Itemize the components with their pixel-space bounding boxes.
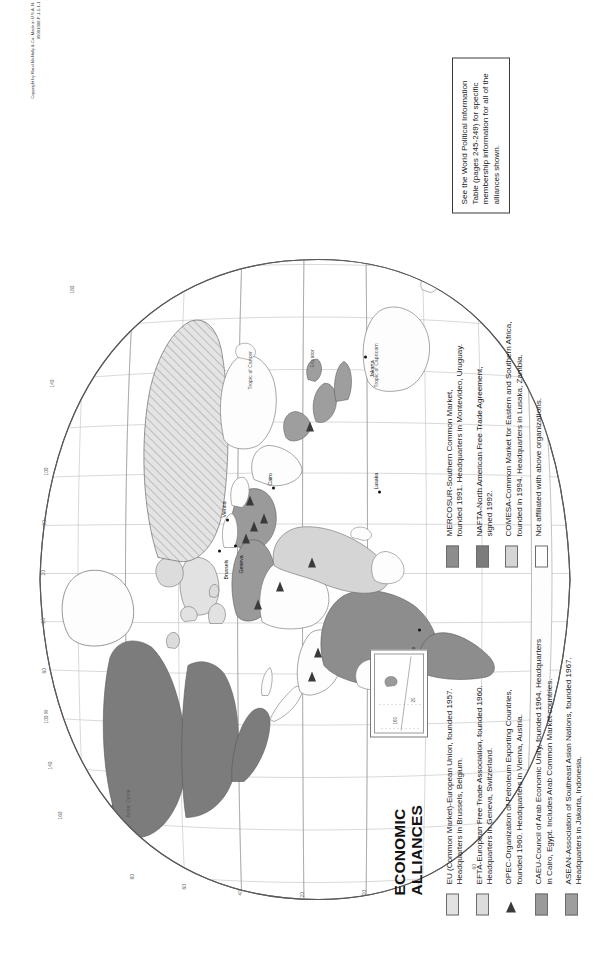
legend-swatch-opec-triangle-icon <box>505 893 518 915</box>
graticule-label-lon: 160 <box>58 811 63 819</box>
graticule-label-lon: 140 <box>50 379 55 387</box>
legend-text-unaffiliated: Not affiliated with above organizations. <box>534 267 544 536</box>
graticule-label-lon: 60 <box>42 668 47 673</box>
legend-swatch-efta <box>476 893 489 915</box>
graticule-label-lon: 180 <box>70 285 75 293</box>
legend-item-comesa: COMESA-Common Market for Eastern and Sou… <box>504 267 525 567</box>
legend-item-efta: EFTA-European Free Trade Association, fo… <box>475 585 496 915</box>
legend-comesa-line1: COMESA-Common Market for Eastern and Sou… <box>504 321 513 536</box>
city-dot-vienna <box>226 518 229 521</box>
city-label-cairo: Cairo <box>267 473 273 485</box>
city-dot-geneva <box>234 544 237 547</box>
city-dot-jakarta <box>364 355 367 358</box>
note-box-line1: See the World Political <box>460 123 469 204</box>
legend-item-opec: OPEC-Organization of Petroleum Exporting… <box>504 585 525 915</box>
graticule-label-lon: 100 W <box>44 709 49 723</box>
legend-item-eu: EU (Common Market)-European Union, found… <box>445 585 466 915</box>
annotation-equator: Equator <box>310 349 315 367</box>
legend-right-column: MERCOSUR-Southern Common Market, founded… <box>445 267 557 567</box>
copyright-notice: Copyright by Rand McNally & Co. Made in … <box>30 1 41 111</box>
legend-efta-line2: Headquarters in Geneva, Switzerland. <box>485 747 494 884</box>
legend-item-asean: ASEAN-Association of Southeast Asian Nat… <box>564 585 585 915</box>
legend-text-efta: EFTA-European Free Trade Association, fo… <box>475 585 496 884</box>
city-dot-montevideo <box>418 628 421 631</box>
graticule-label-lat: 60 <box>182 884 187 889</box>
legend-mercosur-line2: founded 1991. Headquarters in Montevideo… <box>455 344 464 536</box>
legend-opec-line2: founded 1960. Headquarters in Vienna, Au… <box>515 714 524 884</box>
graticule-label-lat: 40 <box>238 890 243 895</box>
legend-text-asean: ASEAN-Association of Southeast Asian Nat… <box>564 585 585 884</box>
legend-swatch-eu <box>446 893 459 915</box>
legend-item-caeu: CAEU-Council of Arab Economic Unity, fou… <box>534 585 555 915</box>
city-label-vienna: Vienna <box>221 501 227 517</box>
legend-item-nafta: NAFTA-North American Free Trade Agreemen… <box>475 267 496 567</box>
city-dot-lusaka <box>378 490 381 493</box>
legend-swatch-mercosur <box>446 545 459 567</box>
graticule-label-lat: 80 <box>130 874 135 879</box>
legend-asean-line1: ASEAN-Association of Southeast Asian Nat… <box>564 657 573 884</box>
legend-eu-line1: EU (Common Market)-European Union, found… <box>445 688 454 884</box>
graticule-label-lon: 100 <box>44 467 49 475</box>
page-title-line1: ECONOMIC <box>392 805 409 896</box>
graticule-label-lon: 20 <box>41 618 46 623</box>
inset-label-lon: 20 <box>411 697 416 702</box>
legend-efta-line1: EFTA-European Free Trade Association, fo… <box>475 685 484 884</box>
legend-item-unaffiliated: Not affiliated with above organizations. <box>534 267 548 567</box>
legend-swatch-comesa <box>505 545 518 567</box>
legend-comesa-line2: founded in 1994. Headquarters in Lusaka,… <box>515 354 524 536</box>
legend-eu-line2: Headquarters in Brussels, Belgium. <box>455 757 464 884</box>
legend-nafta-line2: signed 1992. <box>485 490 494 536</box>
annotation-tropic-of-capricorn: Tropic of Capricorn <box>374 343 379 387</box>
legend-caeu-line1: CAEU-Council of Arab Economic Unity, fou… <box>534 639 543 885</box>
page-title-line2: ALLIANCES <box>409 805 426 896</box>
legend-unaffiliated-line1: Not affiliated with above organizations. <box>534 398 543 536</box>
page-title: ECONOMIC ALLIANCES <box>392 805 425 896</box>
annotation-arctic-circle: Arctic Circle <box>126 789 131 817</box>
map-inset: 160 20 <box>370 649 428 737</box>
graticule-label-lon: 140 <box>48 761 53 769</box>
legend-item-mercosur: MERCOSUR-Southern Common Market, founded… <box>445 267 466 567</box>
city-label-brussels: Brussels <box>223 559 229 579</box>
legend-caeu-line2: in Cairo, Egypt. Includes Arab Common Ma… <box>545 678 554 884</box>
legend-swatch-asean <box>565 893 578 915</box>
city-label-geneva: Geneva <box>238 555 244 573</box>
legend-text-opec: OPEC-Organization of Petroleum Exporting… <box>504 585 525 884</box>
map-canvas: Brussels Geneva Vienna Cairo Lusaka Jaka… <box>0 0 594 957</box>
inset-label-lat: 160 <box>393 716 398 724</box>
city-dot-cairo <box>272 486 275 489</box>
legend-swatch-nafta <box>476 545 489 567</box>
legend-text-eu: EU (Common Market)-European Union, found… <box>445 585 466 884</box>
legend-opec-line1: OPEC-Organization of Petroleum Exporting… <box>504 689 513 884</box>
graticule-label-lat: 20 <box>300 892 305 897</box>
legend-nafta-line1: NAFTA-North American Free Trade Agreemen… <box>475 366 484 536</box>
legend-asean-line2: Headquarters in Jakarta, Indonesia. <box>574 756 583 884</box>
legend-text-comesa: COMESA-Common Market for Eastern and Sou… <box>504 267 525 536</box>
legend-text-nafta: NAFTA-North American Free Trade Agreemen… <box>475 267 496 536</box>
note-box-line4: membership information for <box>481 105 490 204</box>
city-dot-brussels <box>218 549 221 552</box>
legend-swatch-unaffiliated <box>535 545 548 567</box>
graticule-label-lat: 20 <box>362 890 367 895</box>
graticule-label-lon: 20 <box>41 570 46 575</box>
city-label-lusaka: Lusaka <box>373 472 379 489</box>
note-box-line3: 245-249) for specific <box>471 82 480 155</box>
note-box: See the World Political Information Tabl… <box>452 57 510 213</box>
graticule-label-lon: 60 <box>42 520 47 525</box>
legend-text-caeu: CAEU-Council of Arab Economic Unity, fou… <box>534 585 555 884</box>
legend-swatch-caeu <box>535 893 548 915</box>
legend-left-column: EU (Common Market)-European Union, found… <box>445 585 594 915</box>
annotation-tropic-of-cancer: Tropic of Cancer <box>248 351 253 389</box>
legend-text-mercosur: MERCOSUR-Southern Common Market, founded… <box>445 267 466 536</box>
legend-mercosur-line1: MERCOSUR-Southern Common Market, <box>445 389 454 536</box>
page-root: Brussels Geneva Vienna Cairo Lusaka Jaka… <box>0 0 594 957</box>
